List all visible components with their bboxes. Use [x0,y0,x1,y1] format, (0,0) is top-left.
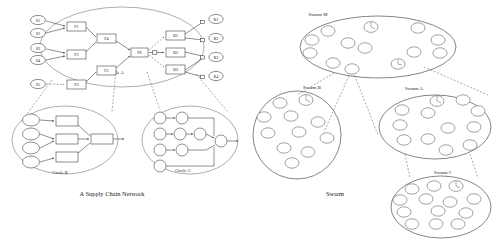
swarm-b-label: Swarm B [303,85,321,90]
node-f6[interactable]: F6 [131,48,148,57]
circle-a-hull: Circle A [40,7,204,87]
node-f3[interactable]: F3 [67,80,86,89]
node-s5-label: S5 [36,82,40,87]
diagram-canvas: Circle A Circle B Circle C [0,0,500,247]
factory-nodes: F1 F2 F3 F4 F5 [67,22,148,89]
swarm-m[interactable]: Swarm M [300,12,456,79]
swarm-c-label: Swarm C [434,170,452,175]
node-d2-label: D2 [173,50,178,55]
node-d1-label: D1 [173,33,178,38]
swarm-a[interactable]: Swarm A [379,86,491,160]
node-d3[interactable]: D3 [166,65,185,74]
figure-container: Circle A Circle B Circle C [0,0,500,247]
node-r2[interactable]: R2 [209,33,223,42]
node-d3-label: D3 [173,67,178,72]
swarm-a-label: Swarm A [405,86,424,91]
node-s2-label: S2 [36,31,40,36]
node-s2[interactable]: S2 [31,28,46,37]
circle-b-detail [23,114,125,168]
swarm-connectors [297,67,488,178]
swarm-m-label: Swarm M [308,12,328,17]
distributor-retailer-edges [185,20,205,78]
node-s1-label: S1 [36,18,40,23]
node-s1[interactable]: S1 [31,15,46,24]
node-d1[interactable]: D1 [166,31,185,40]
distributor-nodes: D1 D2 D3 [166,31,185,74]
node-f4[interactable]: F4 [97,34,116,43]
node-f5[interactable]: F5 [97,66,116,75]
swarm-a-agents [393,95,485,155]
swarm-b-agents [257,95,334,169]
supply-chain-panel: Circle A Circle B Circle C [12,7,238,197]
swarm-c-agents [393,181,481,230]
node-s3-label: S3 [36,46,40,51]
swarm-panel: Swarm M [253,12,491,239]
left-panel-caption: A Supply Chain Network [80,190,146,197]
node-f2[interactable]: F2 [67,50,86,59]
node-d2[interactable]: D2 [166,48,185,57]
node-r3-label: R3 [214,55,219,60]
node-r2-label: R2 [214,36,219,41]
node-r3[interactable]: R3 [209,52,223,61]
node-s4[interactable]: S4 [31,55,46,64]
supplier-nodes: S1 S2 S3 S4 S5 [31,15,46,88]
node-s3[interactable]: S3 [31,43,46,52]
retailer-nodes: R1 R2 R3 R4 [209,14,223,80]
factory-distributor-edges [149,37,164,67]
node-r1[interactable]: R1 [209,14,223,23]
node-f3-label: F3 [74,82,78,87]
node-f1-label: F1 [74,24,78,29]
node-f1[interactable]: F1 [67,22,86,31]
swarm-c[interactable]: Swarm C [391,170,491,239]
node-f6-label: F6 [137,50,141,55]
supplier-factory-edges [46,21,65,85]
circle-c-label: Circle C [175,168,190,173]
node-f5-label: F5 [104,68,108,73]
zoom-leader-lines [24,70,228,118]
node-f2-label: F2 [74,52,78,57]
circle-b-label: Circle B [52,170,67,175]
swarm-m-agents [303,22,447,75]
right-panel-caption: Swarm [326,190,344,197]
node-s5[interactable]: S5 [31,79,46,88]
node-r1-label: R1 [214,17,219,22]
swarm-b[interactable]: Swarm B [253,85,341,180]
node-r4[interactable]: R4 [209,71,223,80]
